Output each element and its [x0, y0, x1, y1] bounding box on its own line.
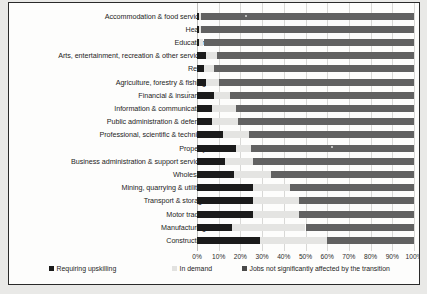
stacked-bar [197, 158, 414, 165]
legend-swatch-icon [172, 266, 177, 271]
stacked-bar [197, 79, 414, 86]
bar-segment-2 [232, 224, 306, 231]
x-axis-tick-label: 20% [234, 253, 247, 260]
legend-item[interactable]: In demand [172, 265, 212, 272]
stacked-bar [197, 211, 414, 218]
category-label: Information & communication [26, 102, 206, 115]
bar-segment-1 [197, 131, 223, 138]
legend-item[interactable]: Jobs not significantly affected by the t… [242, 265, 390, 272]
bar-segment-3 [299, 211, 414, 218]
category-label: Business administration & support servic… [26, 155, 206, 168]
bar-segment-3 [236, 105, 414, 112]
bar-segment-2 [236, 145, 251, 152]
stacked-bar [197, 13, 414, 20]
stacked-bar [197, 52, 414, 59]
category-label: Arts, entertainment, recreation & other … [26, 49, 206, 62]
stacked-bar [197, 131, 414, 138]
category-label: Agriculture, forestry & fishing [26, 76, 206, 89]
bar-segment-3 [327, 237, 414, 244]
bar-segment-3 [204, 39, 414, 46]
bar-segment-3 [271, 171, 414, 178]
bar-segment-1 [197, 105, 212, 112]
stacked-bar [197, 105, 414, 112]
x-axis-tick-label: 100% [406, 253, 420, 260]
bar-segment-1 [197, 79, 206, 86]
legend-label: Jobs not significantly affected by the t… [250, 265, 390, 272]
stacked-bar [197, 237, 414, 244]
bar-segment-2 [206, 79, 219, 86]
bar-segment-1 [197, 171, 234, 178]
bar-segment-3 [217, 52, 414, 59]
bar-segment-1 [197, 184, 253, 191]
bar-segment-3 [201, 13, 414, 20]
bar-segment-1 [197, 118, 212, 125]
bar-segment-1 [197, 92, 214, 99]
bar-segment-3 [249, 131, 414, 138]
x-axis-tick-label: 80% [364, 253, 377, 260]
bar-segment-1 [197, 224, 232, 231]
x-axis-tick-label: 50% [299, 253, 312, 260]
x-axis-tick-label: 0% [192, 253, 202, 260]
category-label: Health [26, 23, 206, 36]
category-label: Mining, quarrying & utilities [26, 181, 206, 194]
category-label: Education [26, 36, 206, 49]
legend-swatch-icon [242, 266, 247, 271]
bar-segment-2 [260, 237, 327, 244]
bar-segment-2 [212, 118, 238, 125]
category-label: Transport & storage [26, 194, 206, 207]
bar-segment-1 [197, 145, 236, 152]
category-label: Wholesale [26, 168, 206, 181]
bar-segment-2 [223, 131, 249, 138]
category-label: Financial & insurance [26, 89, 206, 102]
chart-figure: Accommodation & food servicesHealthEduca… [8, 2, 420, 285]
bar-segment-3 [201, 26, 414, 33]
bar-segment-2 [253, 184, 290, 191]
bar-segment-3 [219, 79, 414, 86]
bar-segment-2 [204, 65, 215, 72]
stacked-bar [197, 224, 414, 231]
chart-plot-region: Accommodation & food servicesHealthEduca… [9, 3, 419, 251]
stacked-bar [197, 39, 414, 46]
bar-segment-2 [212, 105, 236, 112]
x-axis-tick-label: 70% [342, 253, 355, 260]
stacked-bar [197, 197, 414, 204]
x-axis-tick-label: 40% [277, 253, 290, 260]
x-axis-tick-label: 30% [255, 253, 268, 260]
bar-segment-3 [306, 224, 415, 231]
bar-segment-2 [206, 52, 217, 59]
category-label: Public administration & defence [26, 115, 206, 128]
stacked-bar [197, 118, 414, 125]
gridline-100 [414, 3, 415, 251]
stacked-bar [197, 184, 414, 191]
bar-segment-2 [253, 211, 299, 218]
category-label: Manufacturing [26, 221, 206, 234]
bar-segment-3 [290, 184, 414, 191]
bar-segment-3 [253, 158, 414, 165]
stacked-bar [197, 92, 414, 99]
legend-swatch-icon [49, 266, 54, 271]
stacked-bar [197, 26, 414, 33]
scanned-page: Accommodation & food servicesHealthEduca… [0, 0, 427, 294]
legend-item[interactable]: Requiring upskilling [49, 265, 116, 272]
value-axis-ticks: 0%10%20%30%40%50%60%70%80%90%100% [197, 253, 414, 265]
bar-segment-2 [234, 171, 271, 178]
legend-label: In demand [180, 265, 213, 272]
category-label: Motor trades [26, 208, 206, 221]
bar-segment-1 [197, 52, 206, 59]
bar-segment-3 [230, 92, 414, 99]
scan-speckle [187, 91, 189, 93]
bar-segment-2 [253, 197, 299, 204]
bar-segment-3 [238, 118, 414, 125]
category-label: Property [26, 142, 206, 155]
legend-label: Requiring upskilling [57, 265, 117, 272]
stacked-bar [197, 145, 414, 152]
bars-plot [197, 3, 414, 251]
scan-speckle [245, 15, 247, 17]
bar-segment-2 [225, 158, 253, 165]
category-label: Construction [26, 234, 206, 247]
bar-segment-1 [197, 158, 225, 165]
bar-segment-1 [197, 211, 253, 218]
bar-segment-3 [299, 197, 414, 204]
x-axis-tick-label: 90% [386, 253, 399, 260]
bar-segment-1 [197, 197, 253, 204]
